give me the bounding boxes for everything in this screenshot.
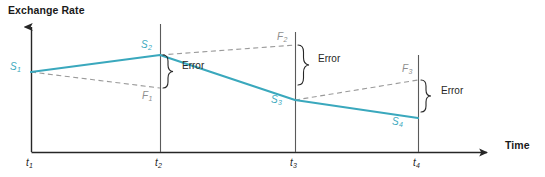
tick-label-t4: t4 xyxy=(413,158,420,168)
error-brace-1 xyxy=(163,55,173,88)
spot-label-s3-base: S xyxy=(271,94,278,105)
error-brace-2 xyxy=(298,45,309,85)
forecast-label-f3: F3 xyxy=(402,64,412,74)
page-title: Exchange Rate xyxy=(8,5,85,16)
forecast-label-f1-sub: 1 xyxy=(148,95,152,102)
exchange-rate-forecast-error-figure: Exchange Rate Time S1 S2 S3 S4 F1 F2 F3 … xyxy=(0,0,545,177)
tick-label-t2: t2 xyxy=(155,158,162,168)
tick-label-t3-sub: 3 xyxy=(293,162,297,169)
tick-label-t4-sub: 4 xyxy=(416,162,420,169)
spot-rate-line xyxy=(31,55,418,118)
spot-label-s4-sub: 4 xyxy=(399,121,403,128)
spot-label-s1-base: S xyxy=(10,61,17,72)
spot-label-s2-sub: 2 xyxy=(148,44,152,51)
tick-label-t1-sub: 1 xyxy=(29,162,33,169)
forecast-segment-f3 xyxy=(295,80,418,100)
spot-label-s4: S4 xyxy=(392,117,403,127)
error-label-3: Error xyxy=(441,86,463,96)
forecast-label-f3-sub: 3 xyxy=(408,68,412,75)
spot-label-s2-base: S xyxy=(141,39,148,50)
spot-label-s3-sub: 3 xyxy=(278,99,282,106)
spot-label-s1-sub: 1 xyxy=(17,66,21,73)
forecast-label-f2: F2 xyxy=(277,32,287,42)
forecast-segment-f1 xyxy=(31,72,160,88)
tick-label-t2-sub: 2 xyxy=(158,162,162,169)
error-brace-3 xyxy=(421,80,431,112)
x-axis-label: Time xyxy=(505,140,530,151)
spot-label-s1: S1 xyxy=(10,62,21,72)
spot-label-s2: S2 xyxy=(141,40,152,50)
spot-label-s3: S3 xyxy=(271,95,282,105)
forecast-label-f2-sub: 2 xyxy=(283,36,287,43)
error-label-2: Error xyxy=(318,54,340,64)
tick-label-t1: t1 xyxy=(26,158,33,168)
figure-canvas xyxy=(0,0,545,177)
forecast-segment-f2 xyxy=(160,45,295,55)
error-label-1: Error xyxy=(182,61,204,71)
forecast-label-f1: F1 xyxy=(142,91,152,101)
tick-label-t3: t3 xyxy=(290,158,297,168)
spot-label-s4-base: S xyxy=(392,116,399,127)
